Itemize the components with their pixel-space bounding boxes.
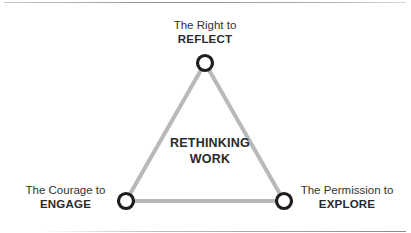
center-label-line1: RETHINKING (165, 135, 255, 151)
node-bottom-right-key: EXPLORE (296, 197, 398, 211)
center-label: RETHINKING WORK (165, 135, 255, 167)
bottom-divider (40, 231, 406, 232)
edge-top-right (205, 63, 284, 201)
node-bottom-left-circle (119, 194, 134, 209)
node-top-pre: The Right to (160, 18, 250, 32)
node-top-circle (198, 56, 213, 71)
triangle-edges (126, 63, 284, 201)
node-bottom-right-circle (277, 194, 292, 209)
center-label-line2: WORK (165, 151, 255, 167)
node-bottom-left-label: The Courage to ENGAGE (18, 183, 113, 211)
node-top-label: The Right to REFLECT (160, 18, 250, 46)
node-bottom-left-key: ENGAGE (18, 197, 113, 211)
node-bottom-right-label: The Permission to EXPLORE (296, 183, 398, 211)
edge-top-left (126, 63, 205, 201)
node-bottom-right-pre: The Permission to (296, 183, 398, 197)
node-bottom-left-pre: The Courage to (18, 183, 113, 197)
node-top-key: REFLECT (160, 32, 250, 46)
